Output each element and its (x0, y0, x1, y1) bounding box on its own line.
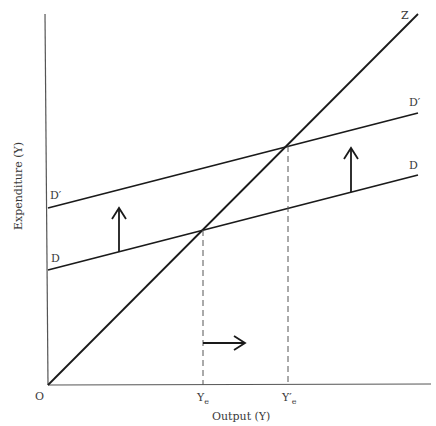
x-axis-title: Output (Y) (212, 410, 270, 423)
d-right-label: D (409, 159, 418, 172)
z-line (48, 14, 418, 385)
z-label: Z (401, 9, 409, 22)
d-left-label: D (51, 252, 60, 265)
shift-up-arrow-left-icon (112, 208, 126, 252)
d-prime-left-label: D′ (50, 189, 62, 202)
keynesian-cross-diagram: Z D′ D D′ D O Ye Y′e Output (Y) Expendit… (0, 0, 436, 426)
shift-up-arrow-right-icon (344, 148, 358, 192)
y-axis (45, 14, 48, 385)
d-line (48, 175, 418, 270)
output-increase-arrow-icon (203, 336, 245, 350)
d-prime-line (48, 113, 418, 208)
ye-label: Ye (196, 391, 209, 406)
x-axis (48, 384, 431, 385)
ye-prime-label: Y′e (281, 391, 297, 406)
origin-label: O (35, 390, 44, 403)
y-axis-title: Expenditure (Y) (12, 142, 25, 230)
d-prime-right-label: D′ (409, 96, 421, 109)
